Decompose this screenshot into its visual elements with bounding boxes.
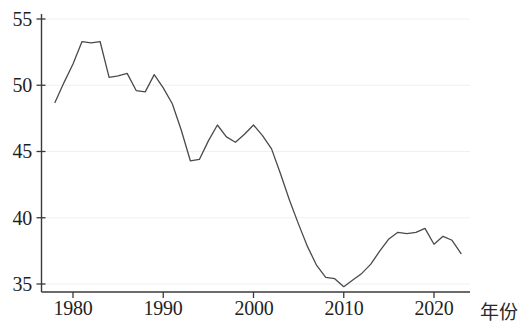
y-tick-label-55: 55 [2, 8, 32, 31]
x-axis-title: 年份 [480, 297, 518, 321]
x-tick-label-1980: 1980 [33, 297, 113, 320]
x-tick-label-2010: 2010 [304, 297, 384, 320]
line-chart-plot [0, 0, 525, 321]
chart-container: 55 50 45 40 35 1980 1990 2000 2010 2020 … [0, 0, 525, 321]
gridlines [42, 19, 471, 284]
x-tick-label-2000: 2000 [214, 297, 294, 320]
y-tick-label-40: 40 [2, 207, 32, 230]
data-series-line-0 [55, 42, 461, 287]
y-tick-label-45: 45 [2, 140, 32, 163]
x-tick-label-1990: 1990 [123, 297, 203, 320]
data-line-group [55, 42, 461, 287]
x-tick-label-2020: 2020 [394, 297, 474, 320]
plot-axes [37, 14, 471, 298]
y-tick-label-35: 35 [2, 273, 32, 296]
y-tick-label-50: 50 [2, 74, 32, 97]
